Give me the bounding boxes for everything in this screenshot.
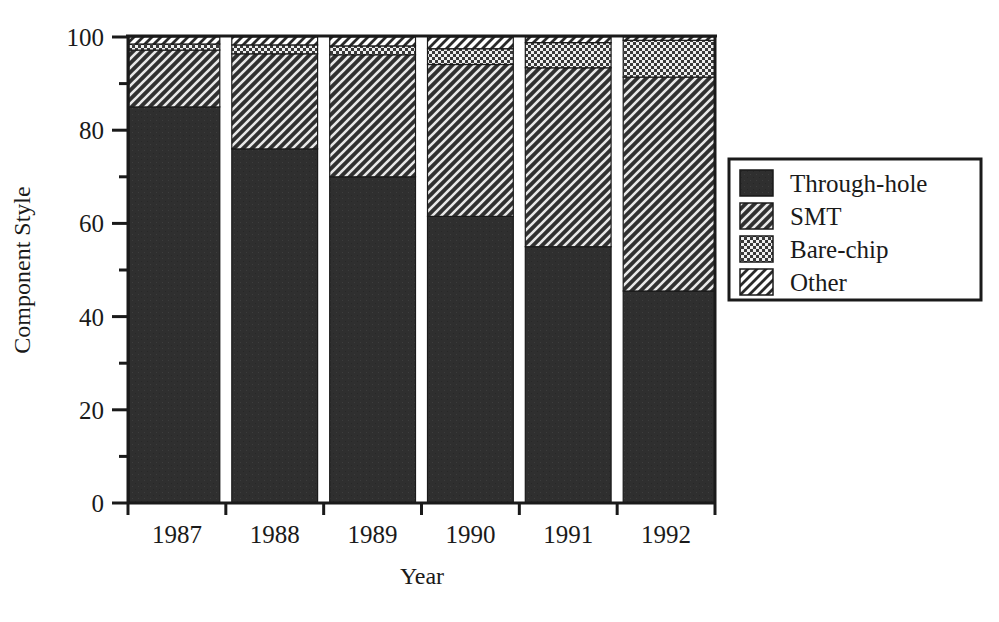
bar-1989[interactable] <box>330 37 416 503</box>
y-tick-group: 020406080100 <box>67 24 129 517</box>
stacked-bar-chart: 020406080100 198719881989199019911992 Co… <box>0 0 999 622</box>
bar-segment-1987-through-hole[interactable] <box>129 107 220 503</box>
bar-1991[interactable] <box>525 37 611 503</box>
bar-1987[interactable] <box>129 37 220 503</box>
y-tick-label-40: 40 <box>79 304 104 331</box>
legend-label-smt: SMT <box>790 203 841 230</box>
y-tick-label-80: 80 <box>79 117 104 144</box>
x-axis-title: Year <box>400 563 444 589</box>
x-tick-label-1990: 1990 <box>445 521 495 548</box>
bar-segment-1989-bare-chip[interactable] <box>330 46 416 55</box>
bar-segment-1992-bare-chip[interactable] <box>623 40 715 77</box>
bar-segment-1991-smt[interactable] <box>525 68 611 247</box>
x-tick-label-1989: 1989 <box>348 521 398 548</box>
y-tick-label-20: 20 <box>79 397 104 424</box>
legend-swatch-other[interactable] <box>740 269 773 295</box>
bar-segment-1990-through-hole[interactable] <box>428 216 514 503</box>
bar-segment-1992-through-hole[interactable] <box>623 291 715 503</box>
x-tick-label-1991: 1991 <box>543 521 593 548</box>
x-tick-label-1992: 1992 <box>641 521 691 548</box>
bar-segment-1988-bare-chip[interactable] <box>232 45 318 54</box>
bar-segment-1988-other[interactable] <box>232 37 318 45</box>
bar-segment-1988-through-hole[interactable] <box>232 149 318 503</box>
x-tick-label-1988: 1988 <box>250 521 300 548</box>
bar-segment-1991-bare-chip[interactable] <box>525 43 611 68</box>
bar-segment-1990-bare-chip[interactable] <box>428 49 514 65</box>
bar-segment-1991-through-hole[interactable] <box>525 247 611 503</box>
legend-swatch-smt[interactable] <box>740 203 773 229</box>
bar-segment-1987-other[interactable] <box>129 37 220 44</box>
bar-1990[interactable] <box>428 37 514 503</box>
legend-label-other: Other <box>790 269 848 296</box>
legend-swatch-through-hole[interactable] <box>740 170 773 196</box>
bar-1992[interactable] <box>623 37 715 503</box>
bar-segment-1989-other[interactable] <box>330 37 416 46</box>
y-tick-label-60: 60 <box>79 210 104 237</box>
bar-segment-1992-smt[interactable] <box>623 77 715 291</box>
legend-label-through-hole: Through-hole <box>790 170 927 197</box>
bar-segment-1988-smt[interactable] <box>232 54 318 149</box>
y-tick-label-100: 100 <box>67 24 105 51</box>
bar-segment-1989-through-hole[interactable] <box>330 177 416 503</box>
y-axis-title: Component Style <box>9 186 35 353</box>
chart-canvas: 020406080100 198719881989199019911992 Co… <box>0 0 999 622</box>
x-tick-label-1987: 1987 <box>152 521 202 548</box>
bar-segment-1987-bare-chip[interactable] <box>129 44 220 50</box>
bar-segment-1987-smt[interactable] <box>129 50 220 107</box>
x-tick-group: 198719881989199019911992 <box>128 503 715 548</box>
bar-segment-1990-smt[interactable] <box>428 65 514 217</box>
y-tick-label-0: 0 <box>92 490 105 517</box>
bar-segment-1991-other[interactable] <box>525 37 611 43</box>
legend-swatch-bare-chip[interactable] <box>740 236 773 262</box>
bar-1988[interactable] <box>232 37 318 503</box>
legend: Through-holeSMTBare-chipOther <box>729 159 981 300</box>
bar-segment-1990-other[interactable] <box>428 37 514 49</box>
bar-segment-1989-smt[interactable] <box>330 55 416 177</box>
legend-label-bare-chip: Bare-chip <box>790 236 889 263</box>
